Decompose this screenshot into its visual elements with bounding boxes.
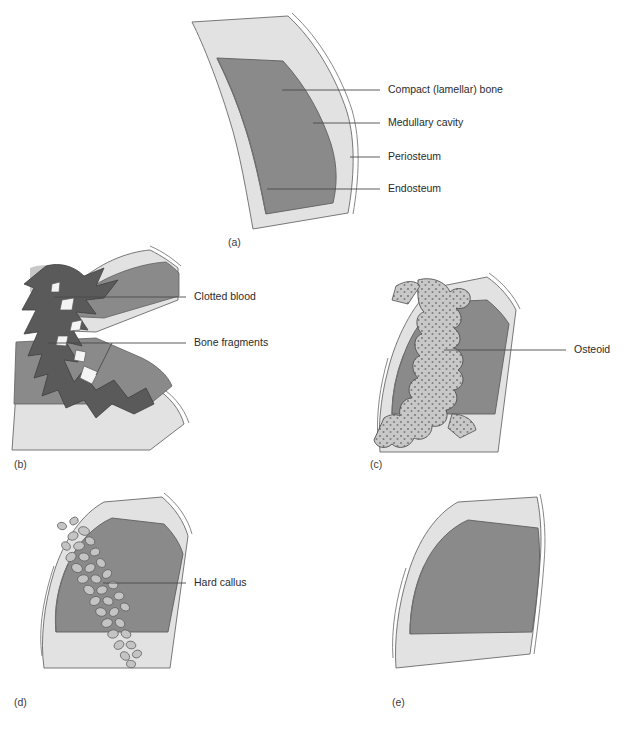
label-osteoid: Osteoid (574, 343, 610, 355)
label-endosteum: Endosteum (388, 182, 441, 194)
label-periosteum: Periosteum (388, 150, 441, 162)
panel-letter-d: (d) (14, 696, 27, 708)
label-bone-fragments: Bone fragments (194, 336, 268, 348)
bone-healing-figure: Compact (lamellar) bone Medullary cavity… (0, 0, 629, 737)
label-medullary-cavity: Medullary cavity (388, 116, 464, 128)
panel-letter-b: (b) (14, 458, 27, 470)
panel-letter-e: (e) (392, 696, 405, 708)
label-compact-bone: Compact (lamellar) bone (388, 83, 503, 95)
panel-letter-c: (c) (370, 458, 382, 470)
panel-letter-a: (a) (228, 236, 241, 248)
label-clotted-blood: Clotted blood (194, 290, 256, 302)
label-hard-callus: Hard callus (194, 576, 247, 588)
